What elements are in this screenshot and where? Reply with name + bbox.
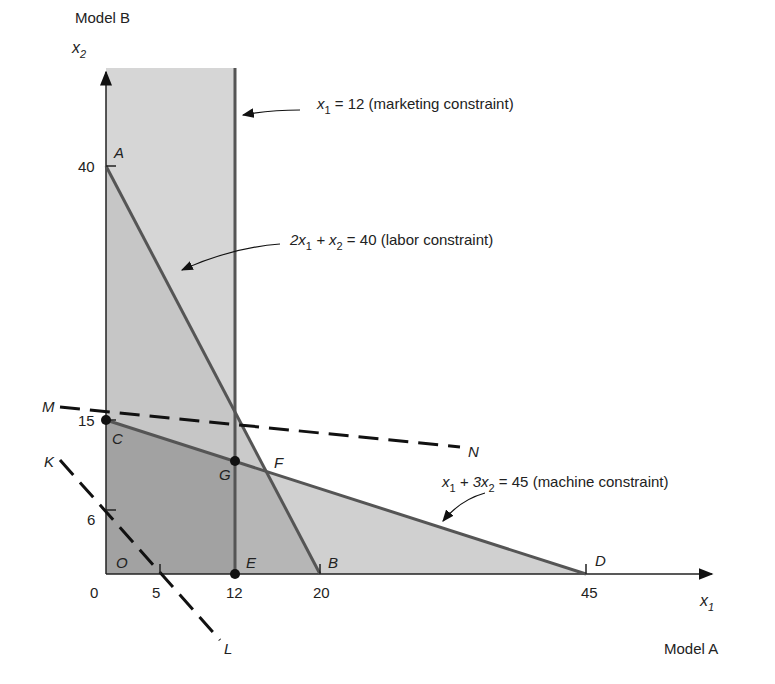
lp-diagram: Model B x2 Model A x1 40 15 6 0 5 12 20 … — [0, 0, 775, 684]
x-tick-label-0: 0 — [90, 584, 98, 601]
x-axis-var: x1 — [699, 592, 714, 613]
label-k: K — [44, 453, 55, 470]
label-e: E — [246, 554, 257, 571]
label-o: O — [116, 554, 128, 571]
x-tick-label-20: 20 — [313, 584, 330, 601]
marketing-arrow — [243, 110, 300, 115]
label-c: C — [112, 430, 123, 447]
x-tick-label-45: 45 — [581, 584, 598, 601]
label-a: A — [113, 144, 124, 161]
machine-constraint-label: x1 + 3x2 = 45 (machine constraint) — [441, 473, 669, 494]
label-m: M — [42, 398, 55, 415]
y-tick-label-15: 15 — [78, 412, 95, 429]
y-tick-label-6: 6 — [87, 511, 95, 528]
label-g: G — [219, 466, 231, 483]
point-e-marker — [230, 569, 240, 579]
label-n: N — [468, 443, 479, 460]
x-tick-label-12: 12 — [226, 584, 243, 601]
marketing-constraint-label: x1 = 12 (marketing constraint) — [316, 95, 514, 116]
label-d: D — [595, 552, 606, 569]
label-f: F — [274, 454, 284, 471]
point-g-marker — [230, 456, 240, 466]
machine-arrow — [443, 493, 485, 521]
x-tick-label-5: 5 — [152, 584, 160, 601]
label-b: B — [328, 554, 338, 571]
y-axis-var: x2 — [71, 39, 86, 60]
point-c-marker — [101, 415, 111, 425]
label-l: L — [224, 640, 232, 657]
labor-constraint-label: 2x1 + x2 = 40 (labor constraint) — [289, 231, 493, 252]
y-tick-label-40: 40 — [78, 158, 95, 175]
y-axis-title: Model B — [75, 9, 130, 26]
x-axis-title: Model A — [664, 640, 718, 657]
